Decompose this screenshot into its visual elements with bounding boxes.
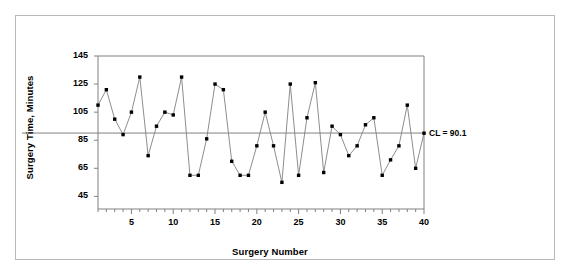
data-point-38 xyxy=(406,103,409,106)
plot-frame xyxy=(98,56,424,209)
data-point-33 xyxy=(364,123,367,126)
data-point-35 xyxy=(381,174,384,177)
data-point-18 xyxy=(238,174,241,177)
x-axis-title: Surgery Number xyxy=(150,246,390,257)
data-point-23 xyxy=(280,181,283,184)
data-point-32 xyxy=(355,144,358,147)
data-point-2 xyxy=(105,88,108,91)
data-point-12 xyxy=(188,174,191,177)
x-tick-label-20: 20 xyxy=(246,217,268,227)
data-point-13 xyxy=(197,174,200,177)
data-point-29 xyxy=(330,124,333,127)
data-point-3 xyxy=(113,117,116,120)
y-axis-title: Surgery Time, Minutes xyxy=(24,53,35,203)
x-tick-label-5: 5 xyxy=(120,217,142,227)
data-point-8 xyxy=(155,124,158,127)
y-tick-label-45: 45 xyxy=(62,190,88,200)
data-point-4 xyxy=(121,133,124,136)
data-point-37 xyxy=(397,144,400,147)
data-point-20 xyxy=(255,144,258,147)
data-point-30 xyxy=(339,133,342,136)
data-point-39 xyxy=(414,167,417,170)
data-point-1 xyxy=(96,103,99,106)
y-tick-label-85: 85 xyxy=(62,134,88,144)
y-tick-label-145: 145 xyxy=(62,50,88,60)
data-point-40 xyxy=(422,132,425,135)
x-tick-label-30: 30 xyxy=(329,217,351,227)
data-point-10 xyxy=(172,113,175,116)
data-point-27 xyxy=(314,81,317,84)
data-point-28 xyxy=(322,171,325,174)
data-point-14 xyxy=(205,137,208,140)
data-point-34 xyxy=(372,116,375,119)
y-tick-label-65: 65 xyxy=(62,162,88,172)
data-point-15 xyxy=(213,82,216,85)
data-point-22 xyxy=(272,144,275,147)
x-tick-label-25: 25 xyxy=(288,217,310,227)
y-tick-label-125: 125 xyxy=(62,78,88,88)
data-point-5 xyxy=(130,110,133,113)
data-point-6 xyxy=(138,75,141,78)
data-point-16 xyxy=(222,88,225,91)
series-line xyxy=(98,77,424,182)
x-tick-label-40: 40 xyxy=(413,217,435,227)
x-tick-label-10: 10 xyxy=(162,217,184,227)
y-axis-ticks xyxy=(94,56,98,196)
x-axis-ticks xyxy=(98,209,424,214)
data-point-9 xyxy=(163,110,166,113)
data-point-21 xyxy=(263,110,266,113)
data-point-19 xyxy=(247,174,250,177)
y-tick-label-105: 105 xyxy=(62,106,88,116)
x-tick-label-15: 15 xyxy=(204,217,226,227)
data-point-36 xyxy=(389,158,392,161)
data-point-25 xyxy=(297,174,300,177)
data-point-26 xyxy=(305,116,308,119)
chart-figure: Surgery Time, Minutes Surgery Number 456… xyxy=(0,0,569,276)
data-point-11 xyxy=(180,75,183,78)
center-line-label: CL = 90.1 xyxy=(429,128,466,138)
data-point-31 xyxy=(347,154,350,157)
x-tick-label-35: 35 xyxy=(371,217,393,227)
data-point-17 xyxy=(230,160,233,163)
data-point-24 xyxy=(289,82,292,85)
data-point-7 xyxy=(146,154,149,157)
